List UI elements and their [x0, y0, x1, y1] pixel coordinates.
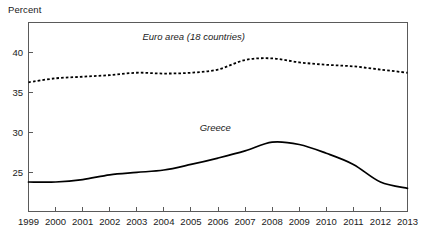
- x-tick-label: 2008: [262, 216, 283, 227]
- x-tick-label: 1999: [18, 216, 39, 227]
- x-tick-label: 2001: [72, 216, 93, 227]
- x-tick-label: 2013: [397, 216, 418, 227]
- series-line-greece: [29, 142, 408, 189]
- x-tick-label: 2004: [153, 216, 174, 227]
- y-tick-label: 35: [12, 87, 23, 98]
- series-label-greece: Greece: [200, 122, 231, 133]
- x-tick-label: 2000: [45, 216, 66, 227]
- x-tick-label: 2003: [126, 216, 147, 227]
- x-tick-label: 2005: [180, 216, 201, 227]
- series-line-euro-area: [29, 58, 408, 82]
- x-tick-label: 2007: [235, 216, 256, 227]
- plot-border: [29, 23, 408, 212]
- y-tick-label: 25: [12, 167, 23, 178]
- x-tick-label: 2011: [343, 216, 363, 227]
- x-tick-label: 2012: [370, 216, 391, 227]
- x-tick-label: 2002: [99, 216, 120, 227]
- x-tick-label: 2006: [207, 216, 228, 227]
- line-chart-plot: 4035302519992000200120022003200420052006…: [0, 0, 424, 248]
- series-label-euro-area: Euro area (18 countries): [142, 31, 244, 42]
- chart-figure: Percent 40353025199920002001200220032004…: [0, 0, 424, 248]
- y-tick-label: 30: [12, 127, 23, 138]
- y-tick-label: 40: [12, 47, 23, 58]
- x-tick-label: 2010: [316, 216, 337, 227]
- x-tick-label: 2009: [289, 216, 310, 227]
